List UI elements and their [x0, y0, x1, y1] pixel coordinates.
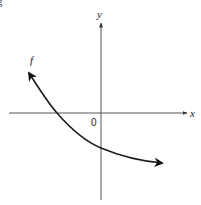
- function-graph: g x y 0 f: [0, 0, 201, 205]
- y-axis-label: y: [96, 8, 102, 20]
- corner-glyph-fragment: g: [0, 0, 3, 7]
- curve-label-f: f: [30, 54, 35, 66]
- origin-label: 0: [91, 117, 97, 128]
- x-axis-label: x: [189, 107, 195, 119]
